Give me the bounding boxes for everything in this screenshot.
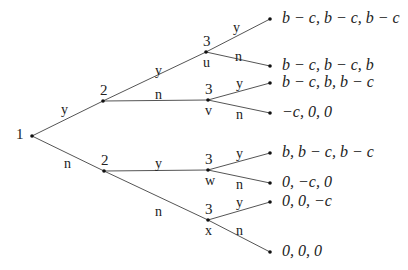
action-label: n <box>236 178 243 192</box>
action-label: y <box>236 147 243 161</box>
decision-node <box>204 50 208 54</box>
payoff-label: b − c, b, b − c <box>282 74 374 90</box>
action-label: n <box>235 50 242 64</box>
action-label: n <box>236 224 243 238</box>
terminal-node <box>268 64 272 68</box>
terminal-node <box>268 200 272 204</box>
player-label: 3 <box>205 152 213 167</box>
terminal-node <box>268 81 272 85</box>
decision-node <box>206 98 210 102</box>
player-label: 3 <box>205 202 213 217</box>
information-set-label: x <box>205 224 212 238</box>
payoff-label: b − c, b − c, b − c <box>282 10 400 26</box>
action-label: y <box>236 77 243 91</box>
information-set-label: u <box>203 56 210 70</box>
game-tree-diagram: ynynynynynynyn1223u3v3w3xb − c, b − c, b… <box>0 0 408 270</box>
decision-node <box>101 99 105 103</box>
action-label: n <box>64 157 71 171</box>
action-label: n <box>155 88 162 102</box>
terminal-node <box>268 111 272 115</box>
payoff-label: b − c, b − c, b <box>282 57 374 73</box>
player-label: 3 <box>205 82 213 97</box>
player-label: 2 <box>101 153 109 168</box>
action-label: y <box>155 64 162 78</box>
information-set-label: v <box>205 104 212 118</box>
action-label: n <box>236 108 243 122</box>
terminal-node <box>268 181 272 185</box>
player-label: 3 <box>203 34 211 49</box>
decision-node <box>206 168 210 172</box>
payoff-label: 0, 0, −c <box>282 193 332 209</box>
player-label: 1 <box>16 127 24 142</box>
terminal-node <box>268 151 272 155</box>
payoff-label: 0, −c, 0 <box>282 174 332 190</box>
action-label: n <box>155 205 162 219</box>
terminal-node <box>268 17 272 21</box>
payoff-label: 0, 0, 0 <box>282 243 322 259</box>
decision-node <box>30 134 34 138</box>
decision-node <box>102 169 106 173</box>
terminal-node <box>268 250 272 254</box>
information-set-label: w <box>205 174 215 188</box>
action-label: y <box>236 196 243 210</box>
action-label: y <box>155 157 162 171</box>
payoff-label: b, b − c, b − c <box>282 144 374 160</box>
player-label: 2 <box>100 83 108 98</box>
action-label: y <box>233 21 240 35</box>
decision-node <box>206 218 210 222</box>
action-label: y <box>61 103 68 117</box>
payoff-label: −c, 0, 0 <box>282 104 332 120</box>
